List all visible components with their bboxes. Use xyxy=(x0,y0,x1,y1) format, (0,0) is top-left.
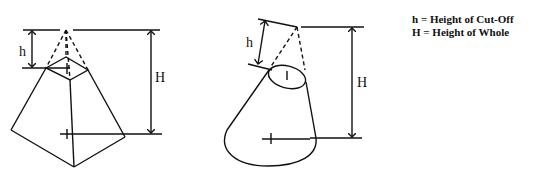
legend-equals: = xyxy=(423,26,429,38)
legend-row-h: h = Height of Cut-Off xyxy=(412,13,514,26)
legend: h = Height of Cut-Off H = Height of Whol… xyxy=(412,13,514,39)
legend-text: Height of Whole xyxy=(432,26,509,38)
legend-symbol: h xyxy=(412,13,418,25)
h-dimension-arrow xyxy=(258,21,265,64)
legend-equals: = xyxy=(421,13,427,25)
pyramid-figure xyxy=(11,30,162,167)
pyramid-H-label: H xyxy=(155,70,165,85)
pyramid-h-label: h xyxy=(19,44,26,59)
apex-dashed-lines xyxy=(270,27,305,70)
cone-h-label: h xyxy=(246,35,253,50)
legend-text: Height of Cut-Off xyxy=(430,13,514,25)
legend-symbol: H xyxy=(412,26,421,38)
legend-row-H: H = Height of Whole xyxy=(412,26,514,39)
cone-H-label: H xyxy=(357,75,367,90)
